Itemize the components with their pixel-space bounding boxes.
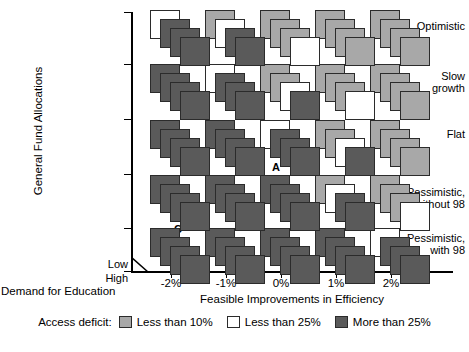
card-dark: [345, 202, 375, 231]
card-gray: [345, 37, 375, 66]
card-dark: [235, 255, 265, 284]
card-stack[interactable]: [370, 175, 432, 233]
card-dark: [290, 202, 320, 231]
card-stack[interactable]: [315, 120, 377, 178]
card-dark: [180, 37, 210, 66]
card-stack[interactable]: [260, 228, 322, 286]
card-dark: [235, 147, 265, 176]
card-stack[interactable]: [150, 10, 212, 68]
card-stack[interactable]: [150, 64, 212, 122]
card-gray: [400, 91, 430, 120]
card-stack[interactable]: [205, 175, 267, 233]
card-dark: [180, 147, 210, 176]
depth-axis-title: Demand for Education: [1, 285, 115, 297]
legend-title: Access deficit:: [38, 316, 112, 328]
legend-swatch-dark: [335, 316, 348, 328]
x-axis-title: Feasible Improvements in Efficiency: [131, 293, 453, 305]
card-stack[interactable]: [370, 10, 432, 68]
y-axis-title: General Fund Allocations: [32, 31, 44, 231]
y-axis-tick: [124, 64, 132, 65]
legend-item[interactable]: Less than 10%: [119, 316, 213, 328]
cell-annotation: A: [272, 161, 280, 173]
y-axis-tick: [124, 119, 132, 120]
depth-low-label: Low: [68, 258, 128, 270]
card-stack[interactable]: [315, 228, 377, 286]
card-dark: [290, 147, 320, 176]
legend: Access deficit: Less than 10%Less than 2…: [0, 316, 469, 328]
card-dark: [290, 91, 320, 120]
card-stack[interactable]: [260, 64, 322, 122]
card-stack[interactable]: [150, 228, 212, 286]
card-stack[interactable]: [205, 64, 267, 122]
card-white: [400, 202, 430, 231]
card-stack[interactable]: [315, 175, 377, 233]
card-stack[interactable]: [205, 228, 267, 286]
card-stack[interactable]: [260, 120, 322, 178]
y-axis-tick: [124, 12, 132, 13]
depth-high-label: High: [68, 272, 128, 284]
card-dark: [180, 91, 210, 120]
card-dark: [235, 91, 265, 120]
legend-label: Less than 25%: [245, 316, 321, 328]
card-stack[interactable]: [370, 64, 432, 122]
chart-canvas: General Fund Allocations OptimisticSlowg…: [0, 0, 469, 352]
legend-swatch-gray: [119, 316, 132, 328]
legend-item[interactable]: Less than 25%: [227, 316, 321, 328]
y-axis-tick: [124, 174, 132, 175]
card-dark: [400, 255, 430, 284]
card-stack[interactable]: [150, 120, 212, 178]
legend-label: More than 25%: [353, 316, 431, 328]
card-stack[interactable]: [370, 120, 432, 178]
card-dark: [345, 147, 375, 176]
card-white: [345, 91, 375, 120]
card-stack[interactable]: [260, 10, 322, 68]
card-dark: [235, 37, 265, 66]
legend-swatch-white: [227, 316, 240, 328]
card-dark: [345, 255, 375, 284]
card-dark: [180, 255, 210, 284]
card-dark: [235, 202, 265, 231]
y-axis-line: [131, 12, 133, 272]
legend-label: Less than 10%: [137, 316, 213, 328]
card-stack[interactable]: [205, 120, 267, 178]
card-white: [290, 37, 320, 66]
card-dark: [290, 255, 320, 284]
legend-items: Less than 10%Less than 25%More than 25%: [119, 316, 431, 328]
card-stack[interactable]: [370, 228, 432, 286]
card-gray: [400, 147, 430, 176]
card-stack[interactable]: [205, 10, 267, 68]
card-stack[interactable]: [260, 175, 322, 233]
card-gray: [400, 37, 430, 66]
card-stack[interactable]: [315, 64, 377, 122]
card-dark: [180, 202, 210, 231]
y-axis-tick: [124, 228, 132, 229]
card-stack[interactable]: [150, 175, 212, 233]
card-stack[interactable]: [315, 10, 377, 68]
legend-item[interactable]: More than 25%: [335, 316, 431, 328]
